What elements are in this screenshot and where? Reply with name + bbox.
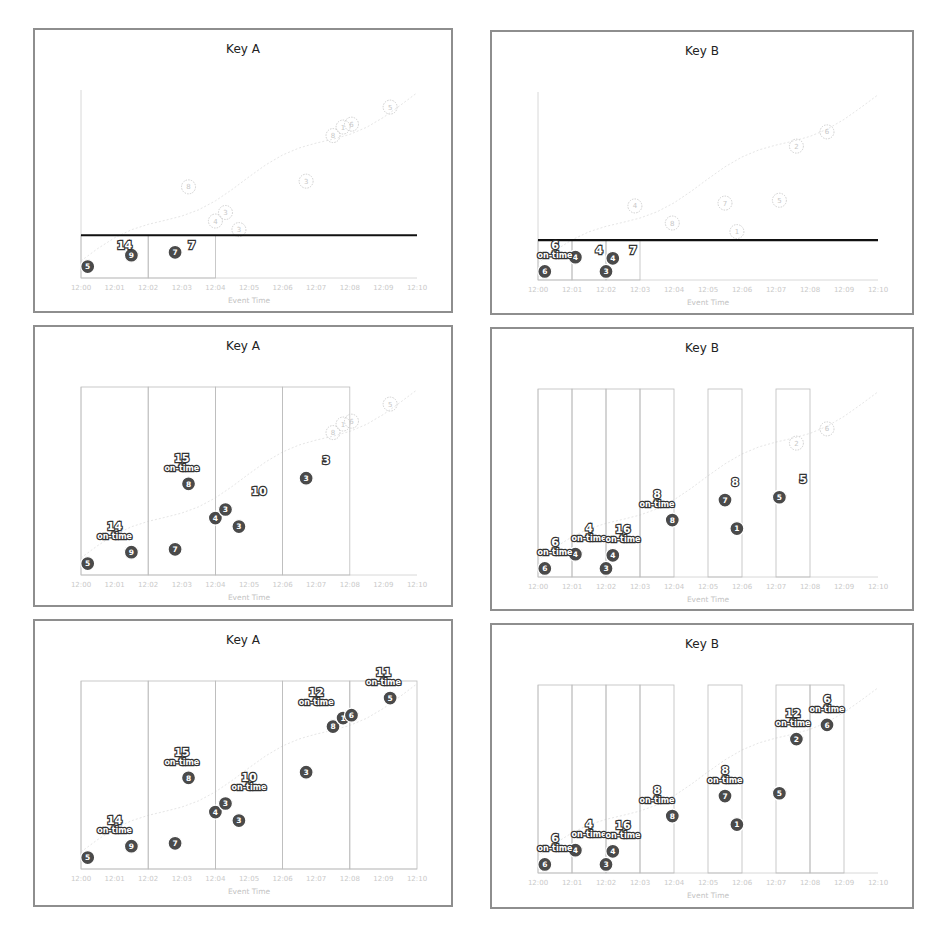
- svg-text:6: 6: [349, 418, 354, 426]
- chart-key-b-stage-3: 12:0012:0112:0212:0312:0412:0512:0612:07…: [492, 625, 912, 907]
- svg-text:3: 3: [223, 799, 228, 808]
- window-box: [640, 389, 674, 577]
- x-tick-label: 12:06: [732, 879, 753, 887]
- x-tick-label: 12:09: [373, 581, 393, 589]
- svg-text:8: 8: [670, 220, 674, 228]
- x-tick-label: 12:01: [562, 583, 582, 591]
- svg-text:1: 1: [734, 524, 739, 533]
- event-point: 8: [665, 513, 679, 527]
- svg-text:on-time: on-time: [164, 758, 199, 767]
- svg-text:7: 7: [188, 239, 196, 252]
- panel-key-a-stage-1: Key A 12:0012:0112:0212:0312:0412:0512:0…: [33, 28, 453, 313]
- x-tick-label: 12:02: [138, 284, 158, 292]
- window-sum-label: 10: [251, 485, 267, 498]
- window-box: [640, 685, 674, 873]
- svg-text:6: 6: [542, 267, 547, 276]
- window-sum-label: 4on-time: [572, 522, 607, 543]
- svg-text:4: 4: [573, 253, 578, 262]
- panel-key-b-stage-1: Key B 12:0012:0112:0212:0312:0412:0512:0…: [490, 30, 914, 315]
- svg-text:on-time: on-time: [97, 826, 132, 835]
- x-tick-label: 12:08: [340, 284, 360, 292]
- x-tick-label: 12:01: [105, 875, 125, 883]
- svg-text:9: 9: [129, 842, 134, 851]
- event-point: 9: [124, 545, 138, 559]
- future-event-point: 3: [299, 174, 313, 188]
- x-tick-label: 12:01: [562, 879, 582, 887]
- x-tick-label: 12:08: [340, 875, 360, 883]
- window-sum-label: 4: [595, 244, 603, 257]
- window-sum-label: 14: [117, 239, 133, 252]
- x-tick-label: 12:08: [340, 581, 360, 589]
- x-tick-label: 12:09: [834, 583, 854, 591]
- x-tick-label: 12:00: [71, 875, 91, 883]
- chart-key-a-stage-1: 12:0012:0112:0212:0312:0412:0512:0612:07…: [35, 30, 451, 311]
- future-event-point: 2: [789, 436, 803, 450]
- future-event-point: 8: [326, 426, 340, 440]
- svg-text:8: 8: [670, 516, 675, 525]
- svg-text:6: 6: [542, 564, 547, 573]
- future-event-point: 5: [383, 100, 397, 114]
- event-point: 3: [599, 264, 613, 278]
- x-tick-label: 12:04: [664, 286, 685, 294]
- window-sum-label: 7: [188, 239, 196, 252]
- x-tick-label: 12:00: [528, 879, 548, 887]
- svg-text:8: 8: [331, 429, 335, 437]
- x-tick-label: 12:02: [596, 286, 616, 294]
- svg-text:5: 5: [85, 853, 90, 862]
- window-box: [81, 387, 148, 575]
- svg-text:4: 4: [610, 254, 615, 263]
- future-event-point: 4: [208, 214, 222, 228]
- svg-text:5: 5: [388, 401, 392, 409]
- svg-text:2: 2: [794, 440, 798, 448]
- future-event-point: 3: [218, 205, 232, 219]
- panel-key-a-stage-2: Key A 12:0012:0112:0212:0312:0412:0512:0…: [33, 325, 453, 607]
- x-tick-label: 12:04: [205, 875, 226, 883]
- x-tick-label: 12:07: [766, 286, 786, 294]
- x-tick-label: 12:06: [273, 875, 294, 883]
- event-point: 3: [218, 796, 232, 810]
- chart-key-b-stage-2: 12:0012:0112:0212:0312:0412:0512:0612:07…: [492, 329, 912, 609]
- svg-text:on-time: on-time: [606, 831, 641, 840]
- window-sum-label: 8on-time: [640, 488, 675, 509]
- x-tick-label: 12:02: [596, 583, 616, 591]
- svg-text:4: 4: [213, 218, 218, 226]
- x-tick-label: 12:00: [528, 286, 548, 294]
- window-sum-label: 14on-time: [97, 520, 132, 541]
- event-point: 3: [599, 561, 613, 575]
- event-point: 5: [81, 260, 95, 274]
- window-box: [215, 387, 282, 575]
- future-event-point: 4: [628, 199, 642, 213]
- svg-text:3: 3: [304, 768, 309, 777]
- x-tick-label: 12:06: [732, 286, 753, 294]
- x-tick-label: 12:09: [834, 879, 854, 887]
- svg-text:5: 5: [388, 694, 393, 703]
- svg-text:6: 6: [824, 721, 829, 730]
- svg-text:4: 4: [573, 550, 578, 559]
- panel-key-b-stage-2: Key B 12:0012:0112:0212:0312:0412:0512:0…: [490, 327, 914, 611]
- svg-text:10: 10: [251, 485, 267, 498]
- event-point: 8: [665, 809, 679, 823]
- svg-text:7: 7: [722, 496, 727, 505]
- svg-text:on-time: on-time: [640, 796, 675, 805]
- x-tick-label: 12:07: [766, 879, 786, 887]
- x-tick-label: 12:00: [528, 583, 548, 591]
- x-axis-label: Event Time: [228, 887, 271, 896]
- svg-text:1: 1: [341, 124, 345, 132]
- window-box: [148, 235, 215, 278]
- svg-text:6: 6: [542, 860, 547, 869]
- window-box: [283, 681, 350, 869]
- svg-text:4: 4: [633, 202, 638, 210]
- svg-text:8: 8: [731, 476, 739, 489]
- x-tick-label: 12:09: [373, 875, 393, 883]
- svg-text:9: 9: [129, 548, 134, 557]
- svg-text:3: 3: [603, 860, 608, 869]
- x-tick-label: 12:04: [664, 583, 685, 591]
- window-box: [283, 387, 350, 575]
- event-point: 6: [344, 708, 358, 722]
- x-tick-label: 12:05: [698, 286, 718, 294]
- x-tick-label: 12:01: [105, 284, 125, 292]
- x-tick-label: 12:07: [306, 284, 326, 292]
- event-point: 2: [789, 732, 803, 746]
- future-event-point: 8: [326, 129, 340, 143]
- svg-text:1: 1: [734, 820, 739, 829]
